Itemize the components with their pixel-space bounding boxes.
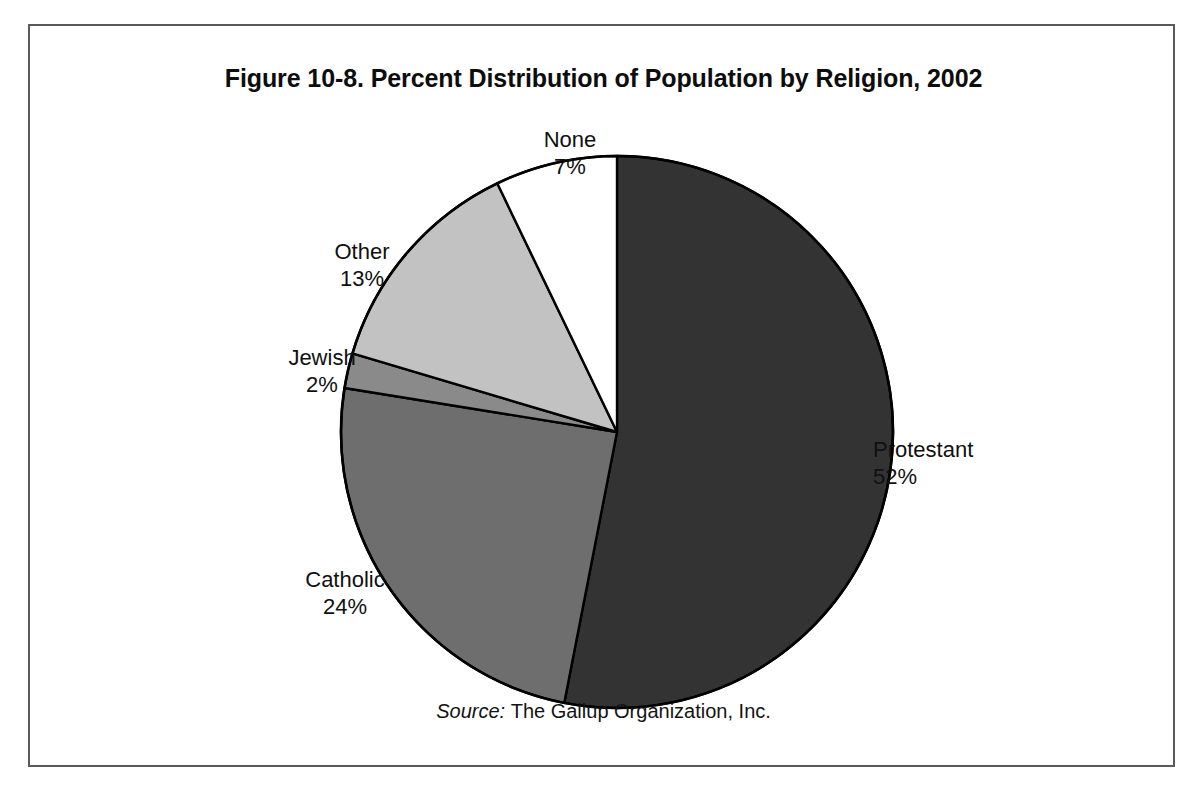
source-label: Source: [436,700,505,722]
slice-label-catholic-value: 24% [270,593,420,620]
slice-label-none: None 7% [500,126,640,180]
slice-label-protestant: Protestant 52% [873,436,1073,490]
pie-chart [337,152,897,712]
slice-label-catholic: Catholic 24% [270,566,420,620]
slice-label-jewish: Jewish 2% [252,344,392,398]
slice-label-other-name: Other [302,238,422,265]
slice-label-protestant-value: 52% [873,463,1073,490]
slice-label-protestant-name: Protestant [873,436,1073,463]
source-note: Source: The Gallup Organization, Inc. [30,700,1177,723]
source-value: The Gallup Organization, Inc. [511,700,771,722]
slice-label-jewish-value: 2% [252,371,392,398]
slice-label-catholic-name: Catholic [270,566,420,593]
figure-root: Figure 10-8. Percent Distribution of Pop… [0,0,1198,797]
slice-label-other: Other 13% [302,238,422,292]
pie-chart-area: None 7% Other 13% Jewish 2% Catholic 24%… [30,26,1177,769]
slice-label-none-name: None [500,126,640,153]
slice-label-jewish-name: Jewish [252,344,392,371]
pie-slice-group [341,156,893,708]
slice-label-other-value: 13% [302,265,422,292]
slice-label-none-value: 7% [500,153,640,180]
figure-border: Figure 10-8. Percent Distribution of Pop… [28,24,1175,767]
